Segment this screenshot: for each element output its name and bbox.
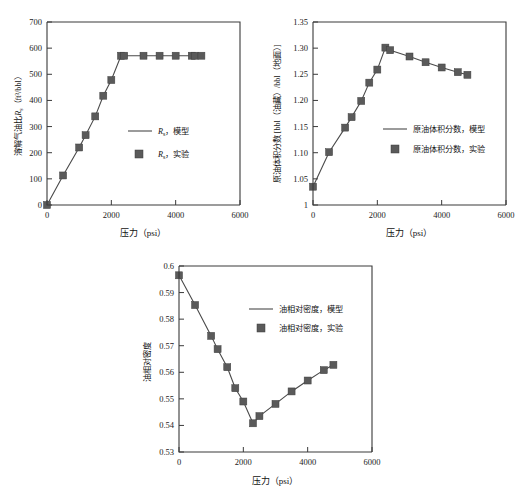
- dens-data-point: [320, 367, 327, 374]
- dens-ytick-label: 0.57: [159, 341, 174, 351]
- dens-data-point: [330, 361, 337, 368]
- bo-legend: 原油体积分数，模型 原油体积分数，实验: [383, 124, 485, 154]
- rs-yaxis-title: 溶解气油比Rs（ft³/bbl）: [13, 72, 24, 156]
- rs-data-point: [76, 144, 83, 151]
- dens-data-point: [224, 364, 231, 371]
- bo-ytick-label: 1: [304, 200, 308, 210]
- rs-data-point: [82, 132, 89, 139]
- bo-ytick-label: 1.30: [293, 43, 308, 53]
- dens-axis-frame: [179, 266, 372, 452]
- dens-ytick-label: 0.55: [159, 394, 174, 404]
- rs-data-point: [140, 52, 147, 59]
- rs-ytick-label: 500: [29, 69, 42, 79]
- dens-legend-experiment-label: 油相对密度，实验: [279, 323, 343, 333]
- bo-tick-labels: 11.051.101.151.201.251.301.3502000400060…: [293, 17, 514, 220]
- bo-axis-frame: [313, 22, 506, 205]
- bo-xtick-label: 4000: [433, 210, 450, 220]
- rs-data-point: [156, 52, 163, 59]
- dens-data-point: [304, 377, 311, 384]
- bo-data-point: [374, 66, 381, 73]
- rs-axis-frame: [47, 22, 240, 205]
- bo-xtick-label: 2000: [369, 210, 386, 220]
- rs-xtick-label: 2000: [103, 210, 120, 220]
- bo-data-point: [438, 64, 445, 71]
- bo-data-point: [348, 114, 355, 121]
- dens-yaxis-title: 油相对密度: [142, 342, 152, 382]
- bo-ytick-label: 1.15: [293, 122, 308, 132]
- dens-axis-ticks: [179, 266, 372, 452]
- rs-legend-experiment-label: Rs，实验: [157, 149, 189, 160]
- rs-xtick-label: 0: [45, 210, 49, 220]
- oil-formation-volume-factor-chart: 11.051.101.151.201.251.301.3502000400060…: [263, 0, 525, 248]
- rs-ytick-label: 400: [29, 95, 42, 105]
- dens-data-point: [288, 388, 295, 395]
- rs-legend-marker-swatch: [135, 150, 143, 158]
- dens-data-point: [214, 346, 221, 353]
- dens-data-point: [232, 385, 239, 392]
- dens-xtick-label: 2000: [235, 457, 252, 467]
- dens-legend-model-label: 油相对密度，模型: [279, 304, 343, 314]
- bo-data-point: [366, 79, 373, 86]
- bo-plot-svg: 11.051.101.151.201.251.301.3502000400060…: [263, 0, 525, 248]
- bo-axis-ticks: [313, 22, 506, 205]
- dens-xtick-label: 4000: [299, 457, 316, 467]
- dens-data-point: [256, 413, 263, 420]
- rs-axis-ticks: [47, 22, 240, 205]
- dens-data-point: [272, 400, 279, 407]
- rs-data-point: [121, 52, 128, 59]
- dens-ytick-label: 0.54: [159, 420, 175, 430]
- rs-ytick-label: 700: [29, 17, 42, 27]
- bo-data-point: [358, 97, 365, 104]
- rs-tick-labels: 01002003004005006007000200040006000: [29, 17, 248, 220]
- rs-frame-top-right: [47, 22, 240, 205]
- dens-data-point: [192, 302, 199, 309]
- dens-ytick-label: 0.58: [159, 314, 174, 324]
- dens-xaxis-title: 压力（psi）: [252, 475, 299, 486]
- bo-ytick-label: 1.10: [293, 148, 308, 158]
- bo-data-point: [422, 59, 429, 66]
- bo-yaxis-title: 原油体积分数 [bbl（油藏）/bbl（地面）]: [272, 44, 282, 183]
- bo-data-point: [454, 69, 461, 76]
- bo-ytick-label: 1.25: [293, 69, 308, 79]
- bo-legend-marker-swatch: [391, 145, 399, 153]
- rs-ytick-label: 300: [29, 122, 42, 132]
- rs-legend-model-label: Rs，模型: [157, 126, 189, 137]
- dens-data-point: [208, 332, 215, 339]
- rs-ytick-label: 0: [38, 200, 42, 210]
- dens-data-point: [240, 398, 247, 405]
- bo-ytick-label: 1.20: [293, 95, 308, 105]
- bo-data-point: [342, 124, 349, 131]
- rs-ytick-label: 200: [29, 148, 42, 158]
- rs-data-point: [172, 52, 179, 59]
- dens-legend: 油相对密度，模型 油相对密度，实验: [249, 304, 343, 333]
- dens-legend-marker-swatch: [257, 324, 265, 332]
- dens-ytick-label: 0.6: [163, 261, 174, 271]
- dens-frame-top-right: [179, 266, 372, 452]
- oil-relative-density-chart: 0.530.540.550.560.570.580.590.6020004000…: [131, 252, 393, 503]
- rs-data-point: [100, 92, 107, 99]
- rs-data-point: [108, 77, 115, 84]
- bo-experiment-markers: [310, 44, 471, 190]
- rs-xtick-label: 4000: [167, 210, 184, 220]
- rs-xtick-label: 6000: [232, 210, 249, 220]
- rs-legend: Rs，模型 Rs，实验: [128, 126, 189, 160]
- dens-xtick-label: 6000: [364, 457, 381, 467]
- dens-ytick-label: 0.56: [159, 367, 174, 377]
- dens-data-point: [249, 420, 256, 427]
- dens-xtick-label: 0: [177, 457, 181, 467]
- rs-ytick-label: 100: [29, 174, 42, 184]
- rs-data-point: [191, 52, 198, 59]
- rs-plot-svg: 01002003004005006007000200040006000 Rs，模…: [0, 0, 262, 248]
- bo-data-point: [464, 71, 471, 78]
- dens-tick-labels: 0.530.540.550.560.570.580.590.6020004000…: [159, 261, 380, 467]
- bo-ytick-label: 1.05: [293, 174, 308, 184]
- dens-model-line: [179, 275, 333, 423]
- bo-legend-model-label: 原油体积分数，模型: [413, 124, 485, 134]
- dens-experiment-markers: [176, 272, 337, 427]
- bo-frame-top-right: [313, 22, 506, 205]
- bo-xaxis-title: 压力（psi）: [386, 227, 433, 238]
- bo-data-point: [326, 149, 333, 156]
- dens-plot-svg: 0.530.540.550.560.570.580.590.6020004000…: [131, 252, 393, 503]
- bo-xtick-label: 6000: [498, 210, 515, 220]
- rs-data-point: [60, 172, 67, 179]
